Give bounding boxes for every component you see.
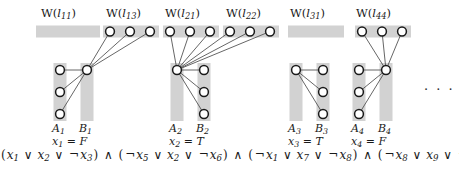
b-node-group-6-0[interactable] — [382, 66, 391, 75]
a-node-group-6-2[interactable] — [355, 110, 364, 119]
w-node-group-4-1[interactable] — [246, 27, 255, 36]
bar-layer — [36, 26, 411, 122]
w-label-group-6: W(l44) — [356, 6, 391, 21]
w-node-group-6-1[interactable] — [378, 27, 387, 36]
w-label-group-4: W(l22) — [226, 6, 261, 21]
b-node-group-5-2[interactable] — [319, 110, 328, 119]
w-label-group-3: W(l21) — [165, 6, 200, 21]
b-node-group-5-1[interactable] — [319, 88, 328, 97]
a-node-group-6-1[interactable] — [355, 88, 364, 97]
boolean-formula: (x1 ∨ x2 ∨ ¬x3) ∧ (¬x5 ∨ x2 ∨ ¬x6) ∧ (¬x… — [0, 148, 459, 163]
b-node-group-3-1[interactable] — [200, 88, 209, 97]
edge-layer — [60, 32, 402, 115]
w-label-group-1: W(l11) — [41, 6, 76, 21]
a-node-group-1-0[interactable] — [56, 66, 65, 75]
and-symbol: ∧ — [358, 148, 376, 162]
b-node-group-5-0[interactable] — [319, 66, 328, 75]
w-node-group-2-2[interactable] — [146, 27, 155, 36]
w-label-group-5: W(l31) — [290, 6, 325, 21]
a-node-group-3-0[interactable] — [173, 66, 182, 75]
w-label-group-2: W(l13) — [106, 6, 141, 21]
b-node-group-3-0[interactable] — [200, 66, 209, 75]
w-bar-group-1 — [36, 26, 100, 38]
w-node-group-3-2[interactable] — [206, 27, 215, 36]
w-node-group-2-1[interactable] — [126, 27, 135, 36]
a-node-group-1-1[interactable] — [56, 88, 65, 97]
w-node-group-6-2[interactable] — [398, 27, 407, 36]
b-node-group-3-2[interactable] — [200, 110, 209, 119]
w-node-group-2-0[interactable] — [106, 27, 115, 36]
w-bar-group-5 — [288, 26, 344, 38]
w-node-group-6-0[interactable] — [358, 27, 367, 36]
a-node-group-5-0[interactable] — [292, 66, 301, 75]
and-symbol: ∧ — [99, 148, 117, 162]
w-node-group-4-2[interactable] — [266, 27, 275, 36]
ellipsis-marker: · · · — [424, 82, 455, 97]
a-node-group-6-0[interactable] — [355, 66, 364, 75]
w-node-group-4-0[interactable] — [226, 27, 235, 36]
gadget-figure: W(l11) W(l13) W(l21) W(l22) W(l31) W(l44… — [0, 0, 459, 173]
and-symbol: ∧ — [229, 148, 247, 162]
w-node-group-3-0[interactable] — [166, 27, 175, 36]
b-node-group-1-0[interactable] — [83, 66, 92, 75]
a-node-group-1-2[interactable] — [56, 110, 65, 119]
w-node-group-3-1[interactable] — [186, 27, 195, 36]
